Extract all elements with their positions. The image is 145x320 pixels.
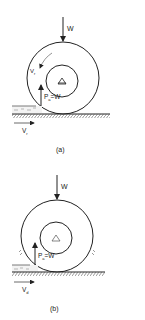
rotation-arrow-a: [40, 53, 52, 68]
water-film-a: [12, 106, 42, 113]
figure-a: W Vr Pa=W Vr (a): [12, 17, 110, 154]
reaction-label-b: Pa=W: [38, 252, 55, 261]
tire-rim-b: [40, 222, 72, 254]
speed-label-a: Vr: [22, 127, 28, 136]
tire-outer-a: [27, 42, 99, 114]
reaction-label-a: Pa=W: [44, 93, 61, 102]
caption-b: (b): [50, 305, 59, 313]
hydroplaning-diagram: W Vr Pa=W Vr (a) W Pa=W: [0, 0, 145, 320]
load-label-a: W: [67, 25, 74, 32]
water-film-b: [12, 265, 38, 272]
load-label-b: W: [61, 183, 68, 190]
speed-label-b: Vd: [22, 286, 29, 295]
figure-b: W Pa=W Vd (b): [12, 175, 105, 313]
axle-icon-b: [52, 235, 60, 241]
rotation-label-a: Vr: [30, 68, 36, 76]
caption-a: (a): [56, 146, 65, 154]
